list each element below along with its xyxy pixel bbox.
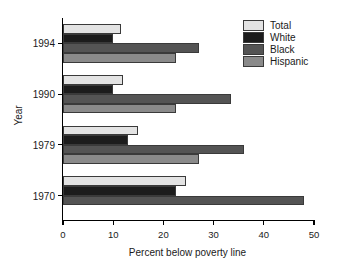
y-axis-tick-label-1970: 1970 [33, 190, 55, 201]
x-axis-tick-label: 40 [259, 229, 270, 240]
bar-white-1990 [63, 85, 113, 95]
x-axis-tick-label: 50 [309, 229, 320, 240]
legend-item-total: Total [243, 19, 308, 31]
bar-total-1970 [63, 176, 186, 186]
y-axis-tick [58, 43, 63, 44]
bar-white-1979 [63, 135, 128, 145]
legend-label-total: Total [270, 20, 291, 31]
x-axis-tick-label: 0 [60, 229, 65, 240]
y-axis-tick-label-1979: 1979 [33, 139, 55, 150]
bar-white-1994 [63, 34, 113, 44]
bar-group [63, 69, 313, 120]
y-axis-tick [58, 144, 63, 145]
legend-label-black: Black [270, 44, 294, 55]
bar-black-1970 [63, 196, 304, 206]
bar-total-1990 [63, 75, 123, 85]
bar-group [63, 170, 313, 221]
x-axis-tick-label: 10 [108, 229, 119, 240]
legend-swatch-hispanic [243, 56, 264, 67]
chart-legend: TotalWhiteBlackHispanic [243, 19, 308, 68]
legend-item-white: White [243, 31, 308, 43]
bar-white-1970 [63, 186, 176, 196]
y-axis-tick [58, 94, 63, 95]
poverty-bar-chart: 010203040501994199019791970 Percent belo… [0, 0, 340, 268]
legend-swatch-white [243, 32, 264, 43]
legend-item-hispanic: Hispanic [243, 56, 308, 68]
bar-hispanic-1979 [63, 154, 199, 164]
legend-label-white: White [270, 32, 296, 43]
bar-total-1979 [63, 126, 138, 136]
x-axis-tick [313, 220, 314, 225]
bar-hispanic-1990 [63, 104, 176, 114]
x-axis-tick-label: 30 [208, 229, 219, 240]
bar-black-1979 [63, 145, 244, 155]
y-axis-tick-label-1990: 1990 [33, 89, 55, 100]
y-axis-tick-label-1994: 1994 [33, 38, 55, 49]
bar-black-1990 [63, 94, 231, 104]
y-axis-title: Year [13, 86, 24, 146]
bar-group [63, 120, 313, 171]
x-axis-tick-label: 20 [158, 229, 169, 240]
y-axis-tick [58, 195, 63, 196]
legend-label-hispanic: Hispanic [270, 56, 308, 67]
bar-black-1994 [63, 43, 199, 53]
legend-item-black: Black [243, 43, 308, 55]
bar-hispanic-1994 [63, 53, 176, 63]
bar-total-1994 [63, 24, 121, 34]
legend-swatch-total [243, 20, 264, 31]
legend-swatch-black [243, 44, 264, 55]
x-axis-title: Percent below poverty line [62, 247, 313, 258]
